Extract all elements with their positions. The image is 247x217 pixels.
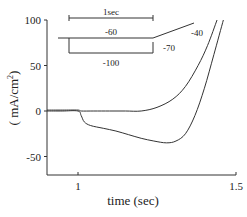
y-tick-label: 100	[25, 14, 42, 26]
chart: 100500-50 11.5 ( mA/cm2) time (sec) 1sec…	[0, 0, 247, 217]
protocol-trace-high	[58, 23, 194, 38]
y-tick-label: 50	[30, 60, 42, 72]
scale-bar-label: 1sec	[103, 7, 119, 17]
x-axis-label: time (sec)	[107, 193, 159, 208]
y-tick-label: -50	[26, 151, 41, 163]
y-tick-label: 0	[36, 105, 42, 117]
label-post-low: -70	[163, 43, 175, 53]
protocol-trace-low	[69, 38, 153, 53]
y-axis-label: ( mA/cm2)	[6, 71, 21, 126]
label-post-high: -40	[191, 28, 203, 38]
x-tick-label: 1.5	[229, 180, 243, 192]
label-step: -100	[103, 58, 120, 68]
protocol-inset: 1sec -60 -100 -70 -40	[58, 7, 203, 68]
x-tick-label: 1	[75, 180, 81, 192]
label-hold: -60	[105, 27, 117, 37]
